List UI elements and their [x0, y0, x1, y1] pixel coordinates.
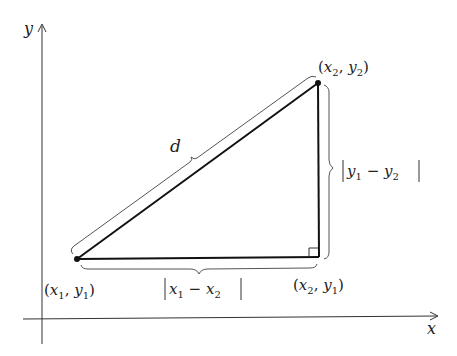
vertical-leg: [318, 83, 319, 257]
hypotenuse: [77, 83, 318, 259]
point-p2: [315, 80, 321, 86]
point-p2-label: (x2, y2): [318, 58, 369, 78]
point-p1: [74, 256, 80, 262]
horizontal-leg: [77, 257, 319, 259]
point-p3-label: (x2, y1): [293, 276, 344, 296]
hypotenuse-brace: [71, 76, 316, 254]
x-axis-label: x: [427, 319, 436, 338]
right-angle-marker: [309, 248, 318, 257]
y-axis-label: y: [23, 19, 34, 38]
point-p1-label: (x1, y1): [44, 281, 95, 301]
distance-diagram: y x d (x1, y1) (x2, y2) (x2, y1) x1 − x2…: [0, 0, 457, 356]
vertical-leg-label: y1 − y2: [346, 162, 399, 182]
hypotenuse-label: d: [170, 136, 181, 156]
x-axis: [23, 316, 437, 319]
vertical-brace: [324, 85, 333, 259]
horizontal-brace: [81, 264, 317, 274]
horizontal-leg-label: x1 − x2: [169, 280, 221, 300]
